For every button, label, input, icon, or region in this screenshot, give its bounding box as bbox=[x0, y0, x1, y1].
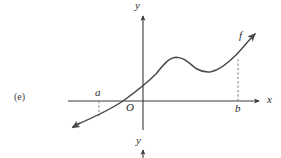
x-axis-label: x bbox=[267, 94, 272, 105]
point-b-label: b bbox=[235, 103, 241, 114]
part-label: (e) bbox=[14, 92, 25, 102]
y-axis-label: y bbox=[135, 0, 140, 11]
function-curve-f bbox=[76, 34, 255, 125]
point-a-label: a bbox=[95, 87, 101, 98]
curve-label-f: f bbox=[239, 30, 242, 41]
origin-label: O bbox=[126, 102, 134, 113]
curve-start-arrow bbox=[73, 123, 81, 128]
figure-container: (e) y y x O a b f bbox=[0, 0, 281, 158]
next-figure-y-axis-label: y bbox=[136, 135, 141, 146]
